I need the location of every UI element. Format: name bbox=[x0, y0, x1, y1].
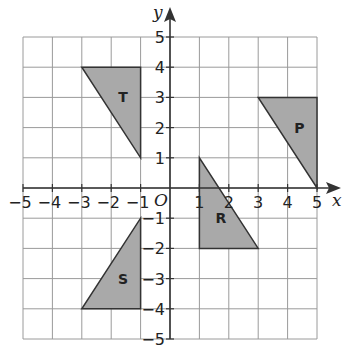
y-tick-label: −2 bbox=[141, 239, 165, 258]
x-tick-label: −5 bbox=[8, 193, 32, 212]
y-tick-label: 5 bbox=[155, 28, 165, 47]
x-tick-label: −2 bbox=[96, 193, 120, 212]
y-tick-label: 1 bbox=[155, 149, 165, 168]
triangle-label: S bbox=[118, 271, 128, 287]
x-tick-label: −3 bbox=[67, 193, 91, 212]
axes bbox=[23, 7, 341, 339]
y-tick-label: 2 bbox=[155, 119, 165, 138]
x-tick-label: −4 bbox=[38, 193, 62, 212]
y-tick-label: −1 bbox=[141, 209, 165, 228]
triangle-label: R bbox=[216, 210, 227, 226]
x-tick-label: 5 bbox=[312, 193, 322, 212]
y-tick-label: −4 bbox=[141, 300, 165, 319]
triangle-label: T bbox=[118, 89, 128, 105]
y-axis-label: y bbox=[152, 2, 163, 22]
x-tick-label: 2 bbox=[224, 193, 234, 212]
x-tick-label: 4 bbox=[283, 193, 293, 212]
origin-label: O bbox=[154, 190, 168, 210]
x-tick-label: 3 bbox=[253, 193, 263, 212]
coordinate-grid: TPSR −5−4−3−2−11234554321−1−2−3−4−5 x y … bbox=[0, 0, 348, 354]
y-tick-label: 4 bbox=[155, 58, 165, 77]
y-tick-label: −3 bbox=[141, 270, 165, 289]
x-axis-label: x bbox=[332, 190, 342, 210]
x-tick-label: 1 bbox=[194, 193, 204, 212]
y-tick-label: 3 bbox=[155, 88, 165, 107]
y-tick-label: −5 bbox=[141, 330, 165, 349]
triangle-label: P bbox=[294, 120, 304, 136]
